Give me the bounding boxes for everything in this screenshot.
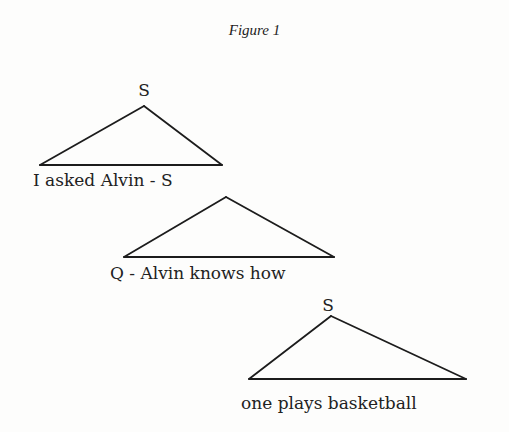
yield-middle: Q - Alvin knows how <box>110 263 286 283</box>
tree-node-middle: Q - Alvin knows how <box>110 197 334 283</box>
yield-bottom: one plays basketball <box>241 393 417 413</box>
triangle-top-right-edge <box>144 106 222 165</box>
syntax-tree-diagram: S I asked Alvin - S Q - Alvin knows how … <box>0 0 509 432</box>
yield-top: I asked Alvin - S <box>33 170 173 190</box>
triangle-middle-right-edge <box>226 197 334 257</box>
tree-node-bottom: S one plays basketball <box>241 295 466 413</box>
triangle-bottom-right-edge <box>331 316 466 379</box>
node-label-bottom-s: S <box>322 295 334 315</box>
node-label-top-s: S <box>138 80 150 100</box>
triangle-middle-left-edge <box>124 197 226 257</box>
triangle-top-left-edge <box>40 106 144 165</box>
tree-node-top: S I asked Alvin - S <box>33 80 222 190</box>
triangle-bottom-left-edge <box>249 316 331 379</box>
